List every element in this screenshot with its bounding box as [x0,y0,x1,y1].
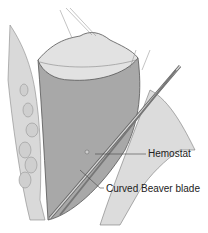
left-tissue-column [8,25,45,220]
hemostat-label: Hemostat [148,148,191,159]
curved-beaver-blade-label: Curved Beaver blade [106,183,200,194]
surgical-illustration [0,0,208,233]
